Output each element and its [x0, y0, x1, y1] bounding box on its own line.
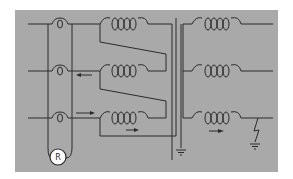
protection-circuit-diagram: R	[0, 0, 293, 179]
relay-r[interactable]: R	[50, 149, 66, 165]
diagram-panel	[15, 10, 278, 172]
relay-label: R	[55, 153, 61, 162]
